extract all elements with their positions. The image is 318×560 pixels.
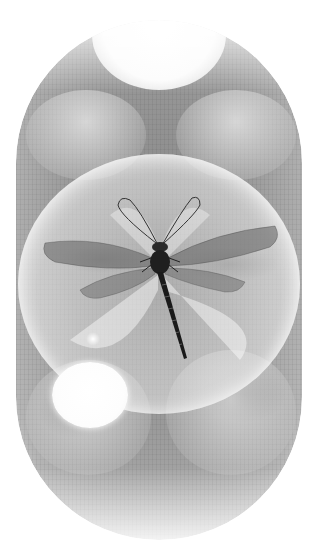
- dragonfly-illustration: [0, 0, 318, 560]
